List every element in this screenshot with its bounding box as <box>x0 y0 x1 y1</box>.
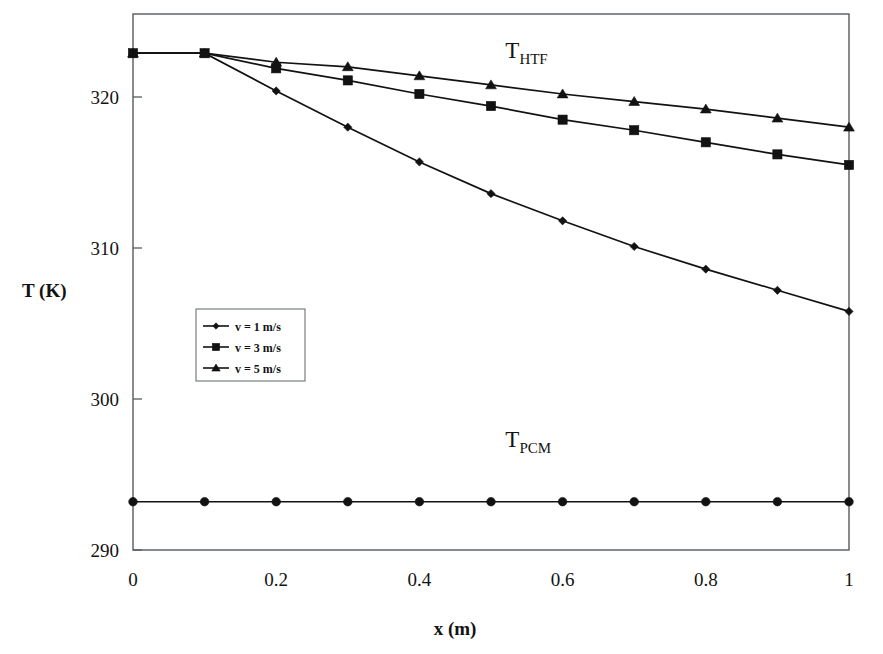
x-tick-label: 0.8 <box>694 569 718 590</box>
chart-legend: v = 1 m/sv = 3 m/sv = 5 m/s <box>196 309 305 381</box>
temperature-profile-chart: 290300310320 00.20.40.60.81 THTFTPCM v =… <box>0 0 883 654</box>
data-point-marker <box>487 497 496 506</box>
y-tick-label: 310 <box>91 238 120 259</box>
data-point-marker <box>630 497 639 506</box>
data-point-marker <box>486 101 495 110</box>
data-point-marker <box>845 497 854 506</box>
data-point-marker <box>129 497 138 506</box>
y-axis-title: T (K) <box>22 280 67 302</box>
x-axis-title: x (m) <box>434 618 477 640</box>
data-point-marker <box>558 115 567 124</box>
data-point-marker <box>200 497 209 506</box>
x-tick-label: 0.6 <box>551 569 575 590</box>
chart-figure: 290300310320 00.20.40.60.81 THTFTPCM v =… <box>0 0 883 654</box>
legend-marker <box>212 343 219 350</box>
x-tick-label: 1 <box>844 569 854 590</box>
data-point-marker <box>558 497 567 506</box>
data-point-marker <box>773 497 782 506</box>
data-point-marker <box>272 497 281 506</box>
y-tick-label: 320 <box>91 87 120 108</box>
data-point-marker <box>702 497 711 506</box>
data-point-marker <box>773 150 782 159</box>
x-tick-label: 0.4 <box>408 569 432 590</box>
y-tick-label: 290 <box>91 540 120 561</box>
data-point-marker <box>415 497 424 506</box>
legend-items: v = 1 m/sv = 3 m/sv = 5 m/s <box>203 320 281 376</box>
y-tick-label: 300 <box>91 389 120 410</box>
legend-label: v = 5 m/s <box>235 362 281 376</box>
data-point-marker <box>415 89 424 98</box>
legend-label: v = 3 m/s <box>235 341 281 355</box>
data-point-marker <box>630 126 639 135</box>
x-tick-label: 0.2 <box>264 569 288 590</box>
legend-label: v = 1 m/s <box>235 320 281 334</box>
data-point-marker <box>844 160 853 169</box>
data-point-marker <box>344 497 353 506</box>
x-tick-label: 0 <box>128 569 138 590</box>
data-point-marker <box>343 76 352 85</box>
data-point-marker <box>701 138 710 147</box>
